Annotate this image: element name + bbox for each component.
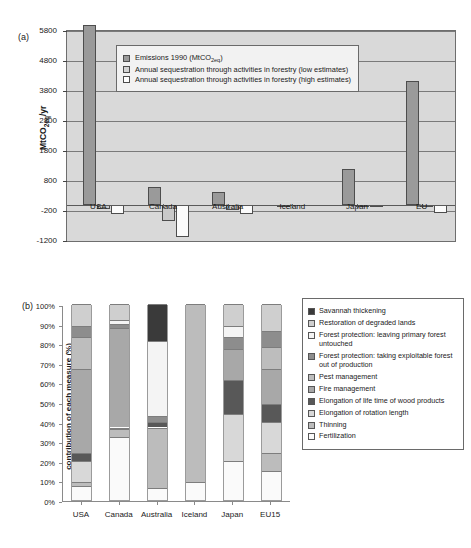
x-category-label-usa: USA [73,510,89,519]
legend-swatch-2 [308,332,315,339]
y-tick-mark [59,345,62,346]
legend-item-sequestration-high: Annual sequestration through activities … [123,76,351,83]
legend-label-2: Forest protection: leaving primary fores… [319,331,459,349]
legend-swatch-1 [308,320,315,327]
legend-item-7: Elongation of rotation length [308,409,459,418]
y-tick-mark [59,424,62,425]
x-tick-mark [232,502,233,505]
y-tick-label: 90% [40,321,55,330]
panel-a-legend: Emissions 1990 (MtCO2eq) Annual sequestr… [116,45,359,92]
legend-label-6: Elongation of life time of wood products [319,397,444,406]
legend-swatch-3 [308,353,315,360]
panel-b-y-tick-labels: 0%10%20%30%40%50%60%70%80%90%100% [0,306,60,502]
x-category-label-eu15: EU15 [260,510,280,519]
y-tick-label: -200 [41,206,57,215]
y-tick-mark [59,482,62,483]
y-tick-label: -1200 [37,236,57,245]
x-tick-mark [194,502,195,505]
legend-item-6: Elongation of life time of wood products [308,397,459,406]
y-tick-label: 60% [40,380,55,389]
y-tick-mark [59,463,62,464]
legend-item-5: Fire management [308,385,459,394]
y-tick-label: 80% [40,341,55,350]
y-tick-mark [59,404,62,405]
y-tick-mark [59,326,62,327]
y-tick-label: 50% [40,400,55,409]
x-category-label-canada: Canada [105,510,133,519]
y-tick-label: 4800 [39,56,57,65]
y-tick-label: 5800 [39,26,57,35]
panel-a-y-tick-labels: -1200-20080018002800380048005800 [0,30,64,242]
legend-label-9: Fertilization [319,432,356,441]
x-category-label-iceland: Iceland [279,202,305,211]
legend-swatch-4 [308,374,315,381]
x-tick-mark [157,502,158,505]
legend-item-4: Pest management [308,373,459,382]
panel-a-emissions-chart: (a) MtCO2eq/yr -1200-2008001800280038004… [0,14,471,280]
legend-item-9: Fertilization [308,432,459,441]
x-tick-mark [119,502,120,505]
x-category-label-japan: Japan [346,202,368,211]
legend-swatch-0 [308,308,315,315]
legend-label-7: Elongation of rotation length [319,409,409,418]
legend-label-sequestration-low: Annual sequestration through activities … [135,66,348,73]
x-tick-mark [81,502,82,505]
legend-swatch-7 [308,410,315,417]
legend-label-0: Savannah thickening [319,307,386,316]
y-tick-label: 30% [40,439,55,448]
legend-item-3: Forest protection: taking exploitable fo… [308,352,459,370]
y-tick-label: 20% [40,458,55,467]
y-tick-mark [59,365,62,366]
x-category-label-iceland: Iceland [182,510,208,519]
y-tick-mark [59,306,62,307]
y-tick-label: 2800 [39,116,57,125]
legend-label-sequestration-high: Annual sequestration through activities … [135,76,351,83]
legend-swatch-emissions [123,55,130,62]
legend-swatch-8 [308,422,315,429]
y-tick-label: 800 [44,176,57,185]
legend-item-2: Forest protection: leaving primary fores… [308,331,459,349]
legend-swatch-sequestration-high [123,76,130,83]
panel-b-y-axis-ticks [62,306,290,502]
y-tick-label: 70% [40,360,55,369]
panel-b-x-category-labels: USACanadaAustraliaIcelandJapanEU15 [62,508,290,522]
legend-swatch-6 [308,398,315,405]
y-tick-label: 100% [36,302,55,311]
legend-label-1: Restoration of degraded lands [319,319,415,328]
legend-swatch-9 [308,433,315,440]
legend-item-emissions: Emissions 1990 (MtCO2eq) [123,54,351,64]
legend-label-3: Forest protection: taking exploitable fo… [319,352,459,370]
y-tick-label: 40% [40,419,55,428]
y-tick-mark [59,443,62,444]
y-tick-label: 3800 [39,86,57,95]
x-tick-mark [270,502,271,505]
panel-b-x-axis-ticks [62,502,290,506]
panel-b-contribution-chart: (b) contribution of each measure (%) 0%1… [0,292,471,548]
legend-item-0: Savannah thickening [308,307,459,316]
legend-emissions-post: ) [220,53,222,62]
legend-label-5: Fire management [319,385,375,394]
y-tick-label: 10% [40,478,55,487]
panel-b-legend: Savannah thickeningRestoration of degrad… [302,298,464,450]
x-category-label-usa: USA [90,202,106,211]
x-category-label-australia: Australia [141,510,172,519]
y-tick-label: 1800 [39,146,57,155]
x-category-label-australia: Australia [212,202,243,211]
legend-emissions-pre: Emissions 1990 (MtCO [135,53,211,62]
legend-item-8: Thinning [308,421,459,430]
legend-item-1: Restoration of degraded lands [308,319,459,328]
legend-label-8: Thinning [319,421,347,430]
y-tick-mark [59,384,62,385]
legend-swatch-sequestration-low [123,66,130,73]
x-category-label-eu: EU [416,202,427,211]
legend-label-4: Pest management [319,373,377,382]
legend-label-emissions: Emissions 1990 (MtCO2eq) [135,54,223,64]
legend-item-sequestration-low: Annual sequestration through activities … [123,66,351,73]
x-category-label-canada: Canada [149,202,177,211]
legend-swatch-5 [308,386,315,393]
y-tick-label: 0% [44,498,55,507]
legend-emissions-sub: 2eq [211,57,220,63]
x-category-label-japan: Japan [221,510,243,519]
